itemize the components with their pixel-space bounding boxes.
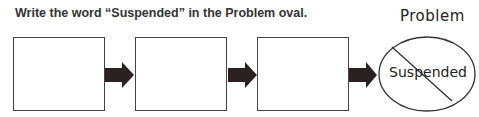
diagram: Write the word “Suspended” in the Proble… [0, 0, 479, 117]
problem-answer: Suspended [381, 64, 475, 80]
problem-oval[interactable] [0, 0, 479, 117]
